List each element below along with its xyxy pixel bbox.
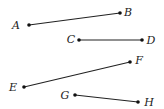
point-f (128, 60, 132, 64)
point-e (22, 85, 26, 89)
point-g (73, 93, 77, 97)
point-h (136, 100, 140, 104)
label-g: G (61, 89, 70, 102)
segment-gh (75, 95, 138, 102)
segment-ef (24, 62, 130, 87)
label-a: A (11, 19, 20, 32)
point-a (27, 23, 31, 27)
label-e: E (8, 81, 17, 94)
line-segments-diagram: A B C D E F G H (0, 0, 164, 109)
label-c: C (67, 33, 76, 46)
label-f: F (134, 54, 143, 67)
point-b (118, 11, 122, 15)
segment-ab (29, 13, 120, 25)
label-d: D (146, 34, 156, 47)
label-b: B (123, 6, 132, 19)
point-c (77, 38, 81, 42)
label-h: H (143, 96, 154, 109)
point-d (140, 38, 144, 42)
